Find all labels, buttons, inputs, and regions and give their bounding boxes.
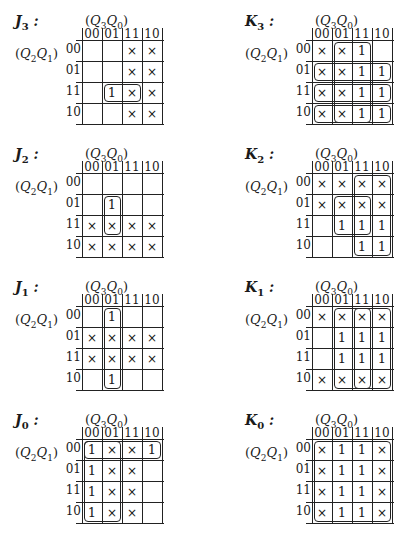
column-header: 01 <box>332 426 352 440</box>
grid-line <box>162 28 163 124</box>
row-header: 10 <box>61 105 81 119</box>
column-header: 10 <box>372 293 392 307</box>
grouping-loop <box>314 63 391 81</box>
column-header: 10 <box>142 293 162 307</box>
dont-care-cell: × <box>82 327 102 348</box>
column-header: 01 <box>332 160 352 174</box>
row-header: 01 <box>61 329 81 343</box>
grid-line <box>76 124 164 125</box>
empty-cell <box>82 194 102 215</box>
row-header: 10 <box>291 504 311 518</box>
row-header: 00 <box>61 175 81 189</box>
row-header: 01 <box>291 462 311 476</box>
row-header: 00 <box>291 175 311 189</box>
empty-cell <box>82 306 102 327</box>
grouping-loop <box>314 105 391 123</box>
empty-cell <box>332 236 352 257</box>
empty-cell <box>142 194 162 215</box>
row-header: 00 <box>291 42 311 56</box>
empty-cell <box>312 348 332 369</box>
column-header: 10 <box>142 426 162 440</box>
grid-line <box>162 427 163 523</box>
row-variable-label: (Q2Q1) <box>15 312 58 330</box>
kmap-k0: K0 :(Q3Q0)(Q2Q1)0001111000011110×11××11×… <box>245 412 413 542</box>
grouping-loop <box>314 84 391 102</box>
row-variable-label: (Q2Q1) <box>15 445 58 463</box>
dont-care-cell: × <box>122 103 142 124</box>
column-header: 11 <box>352 426 372 440</box>
dont-care-cell: × <box>82 236 102 257</box>
grid-line <box>162 161 163 257</box>
row-variable-label: (Q2Q1) <box>245 46 288 64</box>
kmap-j0: J0 :(Q3Q0)(Q2Q1)00011110000111101××11××1… <box>15 412 215 542</box>
dont-care-cell: × <box>122 40 142 61</box>
kmap-grid: ××××××××11111 <box>312 173 392 257</box>
empty-cell <box>122 173 142 194</box>
dont-care-cell: × <box>122 327 142 348</box>
kmap-grid: 1××11××1××1×× <box>82 439 162 523</box>
row-header: 00 <box>291 308 311 322</box>
grid-line <box>306 523 394 524</box>
row-header: 01 <box>61 63 81 77</box>
row-header: 10 <box>61 504 81 518</box>
column-header: 10 <box>142 160 162 174</box>
row-header: 11 <box>61 350 81 364</box>
dont-care-cell: × <box>142 61 162 82</box>
row-header: 00 <box>61 308 81 322</box>
dont-care-cell: × <box>312 194 332 215</box>
row-variable-label: (Q2Q1) <box>245 312 288 330</box>
empty-cell <box>122 306 142 327</box>
dont-care-cell: × <box>82 348 102 369</box>
column-header: 00 <box>82 27 102 41</box>
dont-care-cell: × <box>122 481 142 502</box>
row-header: 01 <box>291 196 311 210</box>
dont-care-cell: × <box>142 103 162 124</box>
row-header: 11 <box>291 350 311 364</box>
kmap-grid: 1×××××××× <box>82 173 162 257</box>
dont-care-cell: × <box>122 460 142 481</box>
column-header: 10 <box>372 160 392 174</box>
empty-cell <box>142 502 162 523</box>
column-header: 11 <box>352 160 372 174</box>
empty-cell <box>312 215 332 236</box>
kmap-title: J0 : <box>15 412 39 431</box>
grouping-loop <box>104 196 121 235</box>
kmap-grid: ××××1×××× <box>82 40 162 124</box>
column-header: 11 <box>352 293 372 307</box>
row-header: 00 <box>291 441 311 455</box>
column-header: 11 <box>122 27 142 41</box>
row-header: 00 <box>61 42 81 56</box>
empty-cell <box>312 327 332 348</box>
column-header: 11 <box>122 426 142 440</box>
empty-cell <box>82 40 102 61</box>
row-variable-label: (Q2Q1) <box>245 445 288 463</box>
column-header: 00 <box>312 27 332 41</box>
row-header: 10 <box>291 105 311 119</box>
kmap-title: K3 : <box>245 13 274 32</box>
dont-care-cell: × <box>332 173 352 194</box>
column-header: 10 <box>372 426 392 440</box>
column-header: 00 <box>82 426 102 440</box>
empty-cell <box>122 194 142 215</box>
dont-care-cell: × <box>142 236 162 257</box>
grouping-loop <box>84 441 161 459</box>
empty-cell <box>142 481 162 502</box>
dont-care-cell: × <box>102 236 122 257</box>
empty-cell <box>82 369 102 390</box>
column-header: 00 <box>312 293 332 307</box>
dont-care-cell: × <box>312 173 332 194</box>
row-header: 01 <box>291 329 311 343</box>
grouping-loop <box>104 84 141 102</box>
dont-care-cell: × <box>122 215 142 236</box>
kmap-title: J3 : <box>15 13 39 32</box>
grid-line <box>76 257 164 258</box>
grid-line <box>306 257 394 258</box>
empty-cell <box>82 103 102 124</box>
grouping-loop <box>354 308 371 389</box>
row-header: 01 <box>291 63 311 77</box>
kmap-grid: ××1××11××11××11 <box>312 40 392 124</box>
column-header: 00 <box>82 293 102 307</box>
grouping-loop <box>314 441 391 522</box>
kmap-grid: 1××××××××1 <box>82 306 162 390</box>
row-header: 01 <box>61 196 81 210</box>
